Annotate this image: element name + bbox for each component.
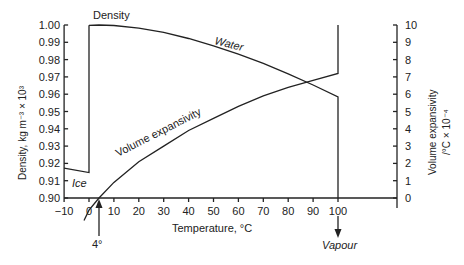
x-tick-label: 90 <box>307 205 319 217</box>
y2-tick-label: 6 <box>405 88 411 100</box>
x-tick-label: 50 <box>207 205 219 217</box>
y-tick-label: 0.97 <box>39 71 60 83</box>
y-tick-label: 0.98 <box>39 54 60 66</box>
expansivity-curve-label: Volume expansivity <box>113 105 203 159</box>
y-tick-label: 0.91 <box>39 175 60 187</box>
x-axis-title: Temperature, °C <box>172 222 252 234</box>
vapour-arrowhead-icon <box>335 229 342 238</box>
x-tick-label: 10 <box>108 205 120 217</box>
y2-axis-title-line1: Volume expansivity <box>427 89 438 175</box>
y2-tick-label: 3 <box>405 140 411 152</box>
vapour-label: Vapour <box>322 239 358 251</box>
y2-tick-label: 8 <box>405 54 411 66</box>
y2-tick-label: 7 <box>405 71 411 83</box>
volume-expansivity-curve <box>84 25 338 221</box>
ice-label: Ice <box>72 177 87 189</box>
x-tick-label: 70 <box>257 205 269 217</box>
x-tick-label: 40 <box>182 205 194 217</box>
y-tick-label: 0.92 <box>39 157 60 169</box>
x-tick-label: −10 <box>55 205 74 217</box>
y-axis-title: Density, kg m⁻³ × 10³ <box>17 85 28 180</box>
y2-tick-label: 1 <box>405 175 411 187</box>
x-tick-label: 80 <box>282 205 294 217</box>
x-tick-label: 20 <box>133 205 145 217</box>
density-curve-label: Density <box>93 9 130 21</box>
y-tick-label: 0.90 <box>39 192 60 204</box>
y2-tick-label: 0 <box>405 192 411 204</box>
x-tick-label: 60 <box>232 205 244 217</box>
x-tick-label: 30 <box>158 205 170 217</box>
four-degree-label: 4° <box>92 238 103 250</box>
y-tick-label: 0.95 <box>39 106 60 118</box>
series <box>64 25 338 221</box>
y-tick-label: 1.00 <box>39 19 60 31</box>
y2-tick-label: 5 <box>405 106 411 118</box>
ice-density-line <box>64 25 89 172</box>
y2-axis-title-line2: /°C × 10⁻⁴ <box>441 109 452 155</box>
x-tick-label: 100 <box>329 205 347 217</box>
chart-svg: 0.900.910.920.930.940.950.960.970.980.99… <box>0 0 464 265</box>
y2-tick-label: 4 <box>405 123 411 135</box>
y-tick-label: 0.99 <box>39 36 60 48</box>
water-curve-label: Water <box>214 34 246 53</box>
y-tick-label: 0.94 <box>39 123 60 135</box>
y-tick-label: 0.93 <box>39 140 60 152</box>
y2-tick-label: 10 <box>405 19 417 31</box>
y2-tick-label: 9 <box>405 36 411 48</box>
y-tick-label: 0.96 <box>39 88 60 100</box>
y2-tick-label: 2 <box>405 157 411 169</box>
